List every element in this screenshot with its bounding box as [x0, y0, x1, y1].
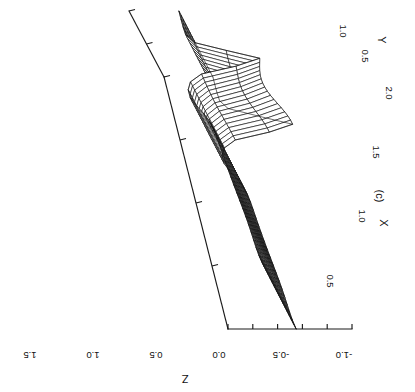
y-axis-ticks	[129, 10, 153, 45]
tick-mark	[180, 139, 186, 141]
axis-text: 0.0	[212, 350, 225, 361]
surface-plot-svg: 1.51.00.50.0-0.5-1.0 0.51.01.52.0 0.51.0…	[0, 0, 415, 392]
subfigure-caption: (c)	[374, 190, 386, 203]
tick-mark	[164, 76, 170, 78]
tick-mark	[196, 202, 202, 204]
mesh-facets	[179, 11, 296, 329]
y-axis-title: Y	[376, 36, 388, 44]
mesh-surface-group	[179, 11, 296, 329]
z-tick-labels: 1.51.00.50.0-0.5-1.0	[23, 350, 352, 361]
axis-text: -0.5	[273, 350, 289, 361]
axis-text: -1.0	[336, 350, 352, 361]
axis-text: 0.5	[325, 274, 336, 287]
axis-text: 1.0	[338, 24, 349, 37]
axis-text: 1.0	[357, 209, 368, 222]
axis-text: 2.0	[384, 86, 395, 99]
axis-text: 1.5	[23, 350, 36, 361]
x-axis-title: X	[378, 219, 390, 227]
axis-text: 0.5	[149, 350, 162, 361]
axis-text: 0.5	[360, 49, 371, 62]
axis-text: 1.0	[86, 350, 99, 361]
tick-mark	[129, 10, 135, 12]
mesh-boundary	[262, 263, 296, 329]
z-axis-ticks	[228, 324, 352, 329]
axis-text: 1.5	[371, 145, 382, 158]
tick-mark	[212, 265, 218, 267]
mesh-boundary	[179, 11, 213, 77]
tick-mark	[147, 43, 153, 45]
z-axis-title: Z	[181, 373, 188, 385]
x-tick-labels: 0.51.01.52.0	[325, 86, 395, 287]
figure-panel: 1.51.00.50.0-0.5-1.0 0.51.01.52.0 0.51.0…	[0, 0, 415, 392]
y-tick-labels: 0.51.0	[338, 24, 371, 62]
